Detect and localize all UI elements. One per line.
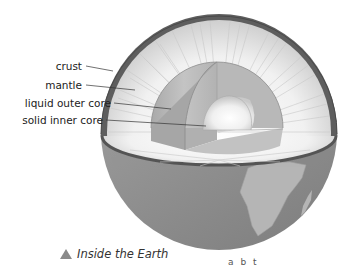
- earth-diagram: crust mantle liquid outer core solid inn…: [0, 0, 346, 266]
- label-solid-inner-core: solid inner core: [4, 114, 103, 126]
- caption-text: Inside the Earth: [77, 247, 168, 261]
- earth-cross-section-graphic: [0, 0, 346, 266]
- figure-caption: Inside the Earth: [60, 247, 168, 261]
- label-mantle: mantle: [32, 79, 82, 91]
- label-crust: crust: [42, 60, 82, 72]
- triangle-up-icon: [60, 249, 72, 259]
- cropped-text-fragment: a b t: [228, 257, 258, 266]
- label-liquid-outer-core: liquid outer core: [2, 97, 111, 109]
